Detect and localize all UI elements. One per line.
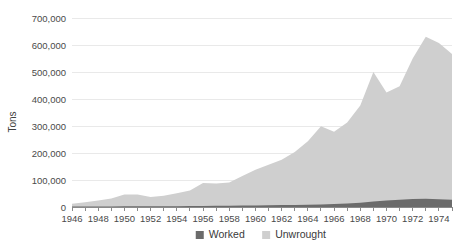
y-tick-label: 500,000 [32,67,66,78]
y-axis-title-text: Tons [7,111,18,132]
x-tick-label: 1974 [428,213,449,224]
y-tick-label: 100,000 [32,175,66,186]
x-tick-label: 1964 [297,213,318,224]
y-tick-label: 600,000 [32,40,66,51]
y-tick-label: 200,000 [32,148,66,159]
x-tick-label: 1956 [192,213,213,224]
x-tick-label: 1952 [140,213,161,224]
legend-swatch-unwrought [262,231,270,239]
x-tick-label: 1968 [350,213,371,224]
x-tick-label: 1948 [88,213,109,224]
axes [72,207,452,211]
chart-canvas: 0100,000200,000300,000400,000500,000600,… [0,0,464,252]
y-tick-label: 300,000 [32,121,66,132]
y-axis-title: Tons [7,111,18,132]
x-tick-labels: 1946194819501952195419561958196019621964… [61,213,449,224]
legend-label-unwrought: Unwrought [275,228,326,240]
x-tick-label: 1962 [271,213,292,224]
y-tick-label: 400,000 [32,94,66,105]
y-tick-label: 0 [61,202,66,213]
area-chart: 0100,000200,000300,000400,000500,000600,… [0,0,464,252]
x-tick-label: 1972 [402,213,423,224]
series-areas [72,37,452,207]
chart-legend: WorkedUnwrought [196,228,326,240]
legend-label-worked: Worked [209,228,245,240]
y-tick-label: 700,000 [32,13,66,24]
x-tick-label: 1950 [114,213,135,224]
y-tick-labels: 0100,000200,000300,000400,000500,000600,… [32,13,66,213]
legend-swatch-worked [196,231,204,239]
series-area-unwrought [72,37,452,207]
x-tick-label: 1960 [245,213,266,224]
x-tick-label: 1958 [219,213,240,224]
x-tick-label: 1966 [323,213,344,224]
x-tick-label: 1954 [166,213,187,224]
x-tick-label: 1946 [61,213,82,224]
x-tick-label: 1970 [376,213,397,224]
